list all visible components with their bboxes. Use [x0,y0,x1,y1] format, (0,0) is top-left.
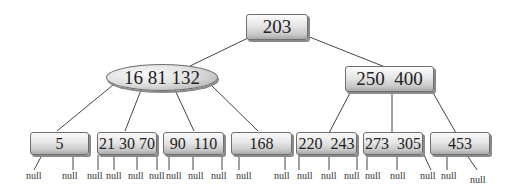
leaf-keys: 453 [448,135,472,153]
leaf-node: 21 30 70 [97,132,157,155]
leaf-keys: 90 110 [170,135,217,153]
leaf-node: 168 [231,132,292,155]
null-pointer-label: null [26,170,42,181]
null-pointer-label: null [188,170,204,181]
null-pointer-label: null [211,170,227,181]
leaf-node: 453 [430,132,490,155]
null-pointer-label: null [236,170,252,181]
null-pointer-label: null [62,170,78,181]
b-tree-diagram: 203 16 81 132 250 400 5 21 30 70 90 110 … [0,0,514,191]
leaf-keys: 273 305 [365,135,421,153]
root-node: 203 [246,14,308,40]
leaf-node: 220 243 [296,132,357,155]
leaf-node: 5 [30,132,89,155]
null-pointer-label: null [87,170,103,181]
leaf-node: 90 110 [163,132,224,155]
null-pointer-label: null [344,170,360,181]
internal-node-right: 250 400 [345,66,434,92]
internal-node-left: 16 81 132 [106,64,218,91]
null-pointer-label: null [128,170,144,181]
leaf-keys: 168 [250,135,274,153]
null-pointer-label: null [420,170,436,181]
internal-right-keys: 250 400 [356,68,423,90]
null-pointer-label: null [166,170,182,181]
leaf-keys: 220 243 [299,135,355,153]
null-pointer-label: null [365,170,381,181]
null-pointer-label: null [390,170,406,181]
null-pointer-label: null [321,170,337,181]
internal-left-keys: 16 81 132 [124,67,200,89]
null-pointer-label: null [106,170,122,181]
null-pointer-label: null [149,170,165,181]
root-keys: 203 [263,16,292,38]
null-pointer-label: null [297,170,313,181]
null-pointer-label: null [274,170,290,181]
leaf-node: 273 305 [363,132,423,155]
leaf-keys: 21 30 70 [99,135,155,153]
null-pointer-label: null [470,174,486,185]
null-pointer-label: null [441,170,457,181]
leaf-keys: 5 [56,135,64,153]
